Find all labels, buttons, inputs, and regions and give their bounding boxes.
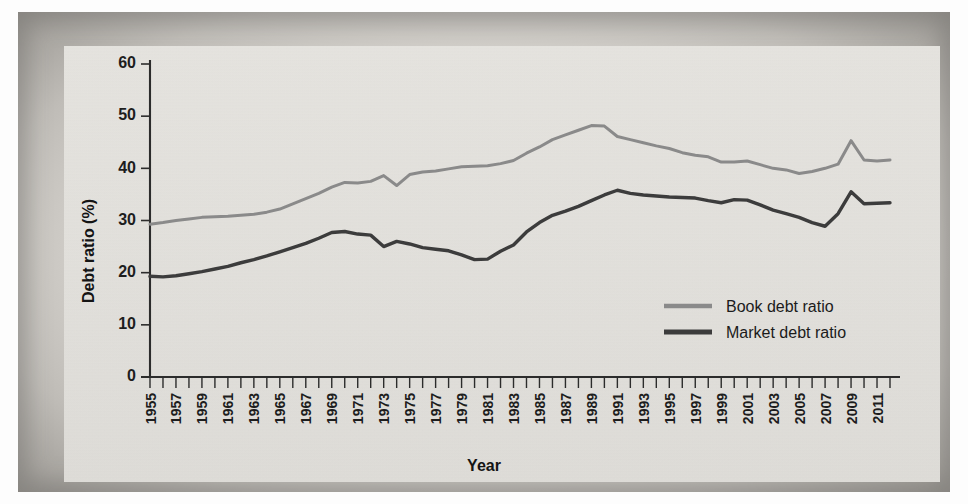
chart-canvas: 0102030405060 19551957195919611963196519… [64, 46, 940, 482]
x-tick-label: 1999 [714, 393, 730, 424]
x-tick-label: 2003 [766, 393, 782, 424]
x-tick-label: 1991 [610, 393, 626, 424]
chart-legend[interactable]: Book debt ratioMarket debt ratio [664, 298, 846, 341]
y-tick-label: 50 [118, 106, 136, 123]
x-tick-label: 1969 [324, 393, 340, 424]
x-axis-title: Year [467, 457, 501, 474]
x-tick-label: 1979 [454, 393, 470, 424]
x-tick-label: 2007 [818, 393, 834, 424]
x-tick-label: 1955 [143, 393, 159, 424]
x-tick-label: 1971 [350, 393, 366, 424]
y-tick-label: 30 [118, 211, 136, 228]
x-tick-label: 1967 [298, 393, 314, 424]
x-tick-label: 1985 [532, 393, 548, 424]
x-tick-label: 1983 [506, 393, 522, 424]
x-tick-label: 2005 [792, 393, 808, 424]
y-axis-title: Debt ratio (%) [80, 199, 97, 303]
x-tick-label: 1987 [558, 393, 574, 424]
scanned-page-frame: 0102030405060 19551957195919611963196519… [18, 12, 950, 492]
x-tick-label: 1965 [272, 393, 288, 424]
legend-label-book-debt-ratio[interactable]: Book debt ratio [726, 298, 834, 315]
legend-label-market-debt-ratio[interactable]: Market debt ratio [726, 324, 846, 341]
series-line-market-debt-ratio [150, 190, 890, 277]
x-tick-label: 2001 [740, 393, 756, 424]
x-tick-label: 1959 [194, 393, 210, 424]
x-tick-label: 2011 [870, 393, 886, 424]
figure-page: 0102030405060 19551957195919611963196519… [0, 0, 968, 504]
x-tick-label: 1993 [636, 393, 652, 424]
x-tick-label: 2009 [844, 393, 860, 424]
x-tick-label: 1995 [662, 393, 678, 424]
x-axis: 1955195719591961196319651967196919711973… [141, 377, 900, 424]
x-tick-label: 1977 [428, 393, 444, 424]
y-tick-label: 10 [118, 315, 136, 332]
x-tick-label: 1957 [168, 393, 184, 424]
y-tick-label: 20 [118, 263, 136, 280]
x-tick-label: 1997 [688, 393, 704, 424]
y-tick-label: 60 [118, 54, 136, 71]
x-tick-label: 1961 [220, 393, 236, 424]
x-tick-label: 1973 [376, 393, 392, 424]
x-tick-label: 1989 [584, 393, 600, 424]
y-tick-label: 0 [127, 367, 136, 384]
x-tick-label: 1963 [246, 393, 262, 424]
line-chart: 0102030405060 19551957195919611963196519… [64, 46, 940, 482]
y-axis: 0102030405060 [118, 54, 150, 384]
x-tick-label: 1981 [480, 393, 496, 424]
series-lines [150, 126, 890, 277]
figure-panel: 0102030405060 19551957195919611963196519… [64, 46, 940, 482]
series-line-book-debt-ratio [150, 126, 890, 225]
y-tick-label: 40 [118, 159, 136, 176]
x-tick-label: 1975 [402, 393, 418, 424]
